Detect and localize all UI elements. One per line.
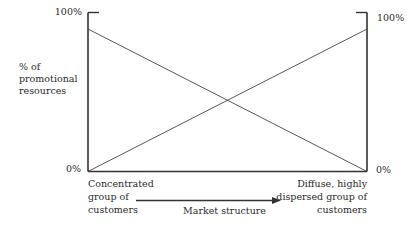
right-axis-top-label: 100% — [377, 12, 404, 24]
y-axis-title-line: resources — [19, 85, 66, 97]
left-axis-bottom-label: 0% — [48, 163, 81, 175]
x-axis-left-label-line: customers — [88, 204, 138, 216]
x-axis-left-label-line: group of — [88, 191, 129, 203]
y-axis-title-line: promotional — [19, 73, 77, 85]
x-axis-right-label-line: dispersed group of — [247, 191, 367, 203]
left-axis-top-label: 100% — [48, 6, 82, 18]
y-axis-title-line: % of — [19, 61, 40, 73]
x-axis-left-label-line: Concentrated — [88, 178, 154, 190]
market-structure-label: Market structure — [183, 205, 266, 217]
right-axis-bottom-label: 0% — [376, 164, 391, 176]
x-axis-right-label-line: Diffuse, highly — [247, 178, 367, 190]
